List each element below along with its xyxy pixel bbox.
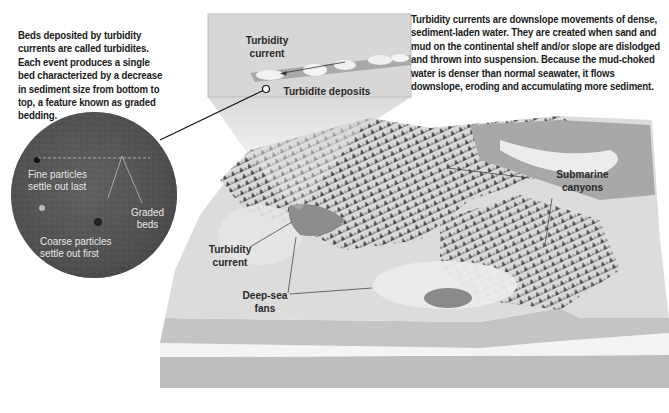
connector-endpoint	[263, 86, 270, 93]
inset-turbidity-current-label: Turbidity current	[236, 34, 298, 60]
label-line: Fine particles	[28, 168, 87, 180]
inset-turbidite-deposits-label: Turbidite deposits	[279, 85, 376, 98]
label-line: beds	[131, 218, 164, 230]
fine-particles-label: Fine particles settle out last	[28, 168, 87, 192]
label-line: Graded	[131, 206, 164, 218]
label-line: Coarse particles	[40, 235, 112, 247]
turbidity-current-label: Turbidity current	[199, 243, 261, 269]
turbidites-description: Beds deposited by turbidity currents are…	[18, 29, 169, 123]
fan-dark-patch	[424, 288, 472, 308]
submarine-canyons-label: Submarine canyons	[550, 168, 616, 194]
label-line: current	[236, 47, 298, 60]
label-line: canyons	[550, 181, 616, 194]
deep-sea-fans-label: Deep-sea fans	[234, 289, 296, 315]
label-line: settle out first	[40, 247, 112, 259]
label-line: current	[199, 256, 261, 269]
label-line: Submarine	[550, 168, 616, 181]
label-line: fans	[234, 302, 296, 315]
coarse-particles-label: Coarse particles settle out first	[40, 235, 112, 259]
label-line: Turbidity	[236, 34, 298, 47]
graded-beds-label: Graded beds	[131, 206, 164, 230]
label-line: Turbidity	[199, 243, 261, 256]
label-line: Deep-sea	[234, 289, 296, 302]
turbidity-currents-description: Turbidity currents are downslope movemen…	[411, 13, 665, 93]
block-cross-section-lower	[160, 355, 669, 388]
label-line: settle out last	[28, 180, 87, 192]
